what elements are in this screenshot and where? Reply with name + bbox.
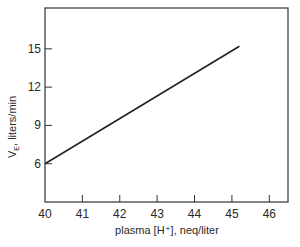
x-tick-label: 45 — [225, 207, 239, 221]
data-series — [45, 46, 239, 163]
x-tick-label: 43 — [150, 207, 164, 221]
x-tick-label: 41 — [76, 207, 90, 221]
y-tick-label: 6 — [34, 157, 41, 171]
y-axis-ticks: 691215 — [28, 42, 52, 171]
y-tick-label: 12 — [28, 80, 42, 94]
x-axis-label: plasma [H⁺], neq/liter — [115, 224, 219, 236]
plot-frame — [45, 8, 288, 202]
y-axis-label: VE, liters/min — [6, 96, 20, 158]
x-tick-label: 44 — [188, 207, 202, 221]
y-axis-label-rest: , liters/min — [6, 96, 18, 146]
figure-caption-cropped — [0, 243, 300, 247]
y-tick-label: 15 — [28, 42, 42, 56]
chart: 691215 40414243444546 VE, liters/min pla… — [0, 0, 300, 247]
x-tick-label: 40 — [38, 207, 52, 221]
x-tick-label: 46 — [263, 207, 277, 221]
x-axis-ticks: 40414243444546 — [38, 195, 276, 221]
y-tick-label: 9 — [34, 118, 41, 132]
series-line — [45, 46, 239, 163]
x-tick-label: 42 — [113, 207, 127, 221]
